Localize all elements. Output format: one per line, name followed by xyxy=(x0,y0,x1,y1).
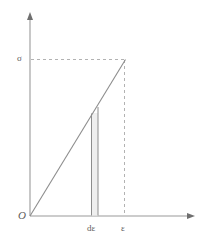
stress-strain-line xyxy=(30,60,126,217)
strain-increment-strip-fill xyxy=(91,113,98,216)
origin-label: O xyxy=(18,210,26,221)
figure-canvas xyxy=(0,0,212,245)
y-axis-arrow-icon xyxy=(27,12,33,20)
x-axis-arrow-icon xyxy=(187,213,195,219)
strain-increment-label: dε xyxy=(87,224,95,233)
sigma-axis-label: σ xyxy=(17,54,22,63)
epsilon-axis-label: ε xyxy=(121,224,125,233)
stress-strain-figure: O σ dε ε xyxy=(0,0,212,245)
